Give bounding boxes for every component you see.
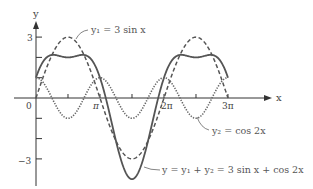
sinusoid-sum-chart: y x 0 π 2π 3π 3 −3 y₁ = 3 sin x y₂ = cos… [0,0,313,189]
y1-annotation: y₁ = 3 sin x [90,24,146,35]
y1-leader-line [76,30,88,39]
x-tick-label-pi: π [92,101,100,111]
origin-label: 0 [26,101,32,111]
x-tick-label-3pi: 3π [222,101,234,111]
y-axis-arrow-icon [33,21,39,29]
x-axis-label: x [276,92,282,103]
y2-leader-line [197,117,209,130]
y-tick-label-3: 3 [27,33,33,43]
sum-annotation: y = y₁ + y₂ = 3 sin x + cos 2x [161,164,304,175]
y-tick-label-neg3: −3 [18,156,32,166]
y-axis-label: y [32,8,39,19]
sum-leader-line [144,167,160,170]
x-tick-label-2pi: 2π [161,101,173,111]
x-axis-arrow-icon [264,95,272,101]
sum-curve [36,55,228,179]
y2-annotation: y₂ = cos 2x [211,125,266,136]
